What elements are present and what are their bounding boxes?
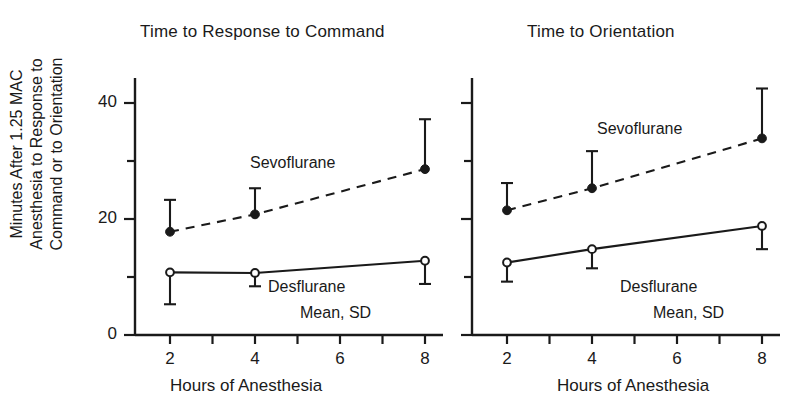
x-tick-label: 4 [582,349,602,369]
data-point-sevoflurane [588,184,597,193]
x-tick-label: 8 [415,349,435,369]
series-label-desflurane: Desflurane [620,278,697,296]
data-point-desflurane [758,222,766,230]
x-tick-label: 6 [667,349,687,369]
legend-note-right: Mean, SD [653,304,724,322]
x-tick-label: 6 [330,349,350,369]
data-point-desflurane [166,268,174,276]
panel-left [124,78,443,344]
data-point-desflurane [251,269,259,277]
data-point-desflurane [503,259,511,267]
data-point-sevoflurane [166,227,175,236]
y-tick-label: 40 [83,92,117,112]
series-line-desflurane [170,261,425,273]
y-tick-label: 0 [83,324,117,344]
data-point-desflurane [588,245,596,253]
series-label-desflurane: Desflurane [268,278,345,296]
x-tick-label: 8 [752,349,772,369]
x-tick-label: 2 [160,349,180,369]
series-label-sevoflurane: Sevoflurane [597,120,682,138]
series-label-sevoflurane: Sevoflurane [250,154,335,172]
x-tick-label: 4 [245,349,265,369]
data-point-desflurane [421,257,429,265]
legend-note-left: Mean, SD [300,304,371,322]
data-point-sevoflurane [503,206,512,215]
data-point-sevoflurane [758,134,767,143]
series-line-sevoflurane [170,169,425,232]
y-tick-label: 20 [83,208,117,228]
series-line-desflurane [507,226,762,263]
data-point-sevoflurane [251,210,260,219]
figure-root: Time to Response to Command Time to Orie… [0,0,792,418]
x-tick-label: 2 [497,349,517,369]
data-point-sevoflurane [421,165,430,174]
series-line-sevoflurane [507,138,762,210]
panel-right [461,78,780,344]
